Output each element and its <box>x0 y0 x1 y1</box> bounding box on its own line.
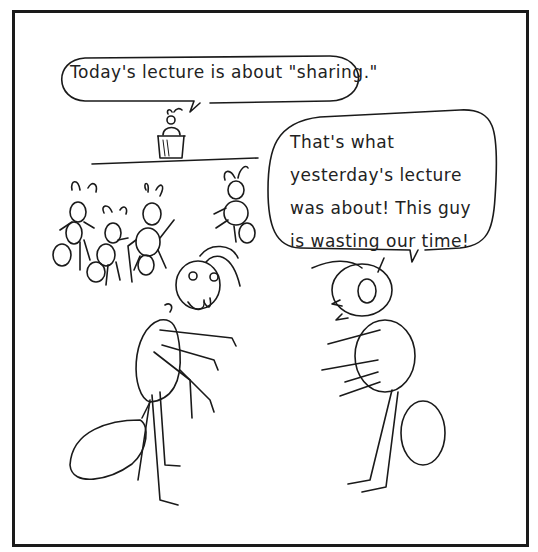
lecturer-ant <box>158 109 185 158</box>
speech-text-lecturer: Today's lecture is about "sharing." <box>70 62 378 82</box>
left-ant <box>70 246 240 505</box>
speech-line: yesterday's lecture <box>290 159 510 192</box>
comic-artwork <box>0 0 538 552</box>
speech-line: That's what <box>290 126 510 159</box>
audience-ant <box>128 184 174 283</box>
speech-line: is wasting our time! <box>290 225 510 258</box>
audience-ant <box>87 206 128 285</box>
right-ant <box>312 258 445 492</box>
audience-ant <box>53 182 96 270</box>
audience-ant <box>214 166 255 243</box>
speech-line: was about! This guy <box>290 192 510 225</box>
speech-text-right-ant: That's what yesterday's lecture was abou… <box>290 126 510 258</box>
floor-line <box>92 158 258 164</box>
